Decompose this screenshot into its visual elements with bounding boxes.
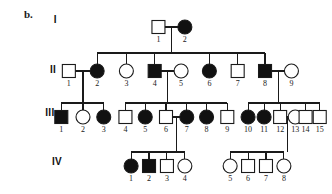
generation-label-II: II bbox=[50, 64, 56, 75]
individual-number-II-5: 5 bbox=[179, 79, 183, 88]
individual-III-6-male-unaffected[interactable] bbox=[160, 111, 173, 124]
individual-number-IV-1: 1 bbox=[129, 174, 133, 183]
individual-III-3-female-affected[interactable] bbox=[97, 110, 111, 124]
individual-number-I-2: 2 bbox=[183, 35, 187, 44]
individual-II-5-female-unaffected[interactable] bbox=[174, 64, 188, 78]
individual-IV-4-female-unaffected[interactable] bbox=[178, 159, 192, 173]
individual-IV-6-male-unaffected[interactable] bbox=[242, 160, 255, 173]
individual-IV-3-male-unaffected[interactable] bbox=[160, 160, 173, 173]
individual-number-II-7: 7 bbox=[236, 79, 240, 88]
individual-symbols-layer bbox=[55, 20, 326, 173]
individual-number-IV-3: 3 bbox=[165, 174, 169, 183]
individual-number-III-14: 14 bbox=[302, 125, 310, 134]
individual-III-9-male-unaffected[interactable] bbox=[221, 111, 234, 124]
individual-number-III-13: 13 bbox=[291, 125, 299, 134]
individual-II-3-female-unaffected[interactable] bbox=[119, 64, 133, 78]
individual-III-11-female-affected[interactable] bbox=[257, 110, 271, 124]
generation-label-III: III bbox=[45, 107, 54, 118]
individual-number-IV-6: 6 bbox=[246, 174, 250, 183]
individual-III-1-male-affected[interactable] bbox=[55, 111, 68, 124]
individual-number-IV-7: 7 bbox=[264, 174, 268, 183]
individual-II-6-female-affected[interactable] bbox=[202, 64, 216, 78]
individual-number-II-1: 1 bbox=[67, 79, 71, 88]
individual-number-III-7: 7 bbox=[185, 125, 189, 134]
individual-III-14-male-unaffected[interactable] bbox=[299, 111, 312, 124]
individual-III-2-female-unaffected[interactable] bbox=[76, 110, 90, 124]
individual-II-8-male-affected[interactable] bbox=[259, 65, 272, 78]
individual-III-7-female-affected[interactable] bbox=[180, 110, 194, 124]
individual-II-2-female-affected[interactable] bbox=[90, 64, 104, 78]
individual-number-II-3: 3 bbox=[124, 79, 128, 88]
individual-number-III-10: 10 bbox=[244, 125, 252, 134]
individual-number-III-11: 11 bbox=[260, 125, 268, 134]
individual-number-IV-4: 4 bbox=[183, 174, 187, 183]
individual-number-III-4: 4 bbox=[123, 125, 127, 134]
individual-I-1-male-unaffected[interactable] bbox=[152, 21, 165, 34]
individual-I-2-female-affected[interactable] bbox=[178, 20, 192, 34]
individual-III-8-female-affected[interactable] bbox=[200, 110, 214, 124]
individual-number-IV-2: 2 bbox=[147, 174, 151, 183]
individual-number-III-15: 15 bbox=[316, 125, 324, 134]
individual-II-1-male-unaffected[interactable] bbox=[62, 65, 75, 78]
individual-II-9-female-unaffected[interactable] bbox=[284, 64, 298, 78]
pedigree-figure: b. 1212345678912345678910111213141512345… bbox=[0, 0, 332, 194]
generation-label-IV: IV bbox=[52, 156, 62, 167]
individual-number-II-2: 2 bbox=[95, 79, 99, 88]
individual-III-10-female-affected[interactable] bbox=[241, 110, 255, 124]
individual-number-III-2: 2 bbox=[81, 125, 85, 134]
individual-II-4-male-affected[interactable] bbox=[148, 65, 161, 78]
connector-lines-layer bbox=[61, 27, 319, 166]
individual-number-III-1: 1 bbox=[59, 125, 63, 134]
individual-number-III-6: 6 bbox=[164, 125, 168, 134]
individual-number-III-5: 5 bbox=[143, 125, 147, 134]
individual-number-II-8: 8 bbox=[263, 79, 267, 88]
individual-III-4-male-unaffected[interactable] bbox=[119, 111, 132, 124]
individual-II-7-male-unaffected[interactable] bbox=[231, 65, 244, 78]
individual-number-IV-5: 5 bbox=[228, 174, 232, 183]
individual-number-II-9: 9 bbox=[289, 79, 293, 88]
individual-IV-2-male-affected[interactable] bbox=[143, 160, 156, 173]
individual-number-II-4: 4 bbox=[153, 79, 157, 88]
individual-number-IV-8: 8 bbox=[282, 174, 286, 183]
individual-number-I-1: 1 bbox=[156, 35, 160, 44]
individual-number-II-6: 6 bbox=[207, 79, 211, 88]
individual-III-5-female-affected[interactable] bbox=[138, 110, 152, 124]
individual-III-12-male-unaffected[interactable] bbox=[274, 111, 287, 124]
pedigree-diagram: 1212345678912345678910111213141512345678 bbox=[0, 0, 332, 194]
individual-IV-7-male-unaffected[interactable] bbox=[259, 160, 272, 173]
individual-number-III-12: 12 bbox=[276, 125, 284, 134]
individual-IV-5-female-unaffected[interactable] bbox=[223, 159, 237, 173]
individual-IV-1-female-affected[interactable] bbox=[124, 159, 138, 173]
individual-number-III-9: 9 bbox=[225, 125, 229, 134]
individual-III-15-male-unaffected[interactable] bbox=[313, 111, 326, 124]
individual-IV-8-female-unaffected[interactable] bbox=[277, 159, 291, 173]
individual-number-III-3: 3 bbox=[102, 125, 106, 134]
individual-number-III-8: 8 bbox=[205, 125, 209, 134]
generation-label-I: I bbox=[54, 14, 57, 25]
